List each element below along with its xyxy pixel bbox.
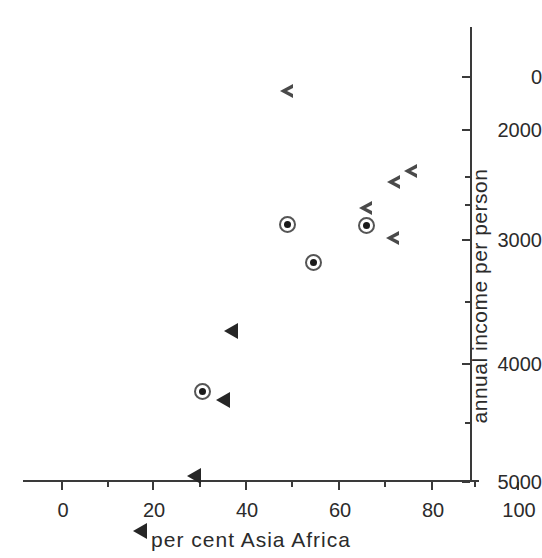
x-tick-40	[245, 482, 247, 490]
data-point-asia-triangle-2	[216, 392, 230, 408]
x-tick-label-100: 100	[484, 499, 542, 522]
data-point-asia-triangle-3	[187, 468, 201, 484]
data-point-asia-circle-4	[195, 384, 212, 401]
y-axis-title: annual income per person	[468, 146, 492, 446]
data-point-asia-circle-2	[280, 217, 297, 234]
x-tick-minor-90	[474, 482, 476, 487]
x-tick-minor-70	[384, 482, 386, 487]
x-tick-0	[61, 482, 63, 490]
data-point-asia-triangle-4	[133, 523, 147, 539]
x-axis-title: per cent Asia Africa	[23, 528, 479, 552]
x-tick-label-20: 20	[119, 499, 189, 522]
data-point-africa-5	[386, 231, 399, 245]
data-point-asia-triangle-1	[224, 323, 238, 339]
x-tick-80	[431, 482, 433, 490]
x-tick-minor-10	[107, 482, 109, 487]
x-tick-20	[152, 482, 154, 490]
x-tick-label-80: 80	[398, 499, 468, 522]
x-tick-label-0: 0	[28, 499, 98, 522]
x-axis-line	[23, 480, 479, 482]
y-tick-label-5000: 5000	[480, 470, 542, 494]
y-tick-0	[462, 76, 470, 78]
x-tick-label-60: 60	[305, 499, 375, 522]
y-tick-5000	[462, 481, 470, 483]
data-point-africa-3	[387, 175, 400, 189]
rotated-figure-container: 0 20 40 60 80 100 0 2000 3000 4000 5000 …	[0, 0, 542, 558]
scatter-plot: 0 20 40 60 80 100 0 2000 3000 4000 5000 …	[0, 0, 542, 558]
y-tick-label-2000: 2000	[480, 118, 542, 142]
x-tick-label-40: 40	[212, 499, 282, 522]
data-point-africa-2	[404, 164, 417, 178]
y-tick-2000	[462, 129, 470, 131]
data-point-asia-circle-1	[359, 218, 376, 235]
data-point-asia-circle-3	[306, 255, 323, 272]
y-tick-label-0: 0	[480, 65, 542, 89]
x-tick-60	[338, 482, 340, 490]
data-point-africa-4	[359, 201, 372, 215]
x-tick-minor-50	[291, 482, 293, 487]
data-point-africa-1	[280, 84, 293, 98]
